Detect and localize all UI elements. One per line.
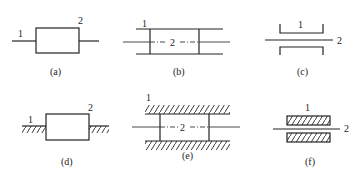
label-2: 2 (88, 102, 93, 113)
caption-c: (c) (297, 66, 308, 78)
caption-b: (b) (173, 66, 185, 78)
label-1: 1 (28, 114, 33, 125)
panel-c: 1 2 (c) (265, 19, 342, 78)
panel-f: 1 2 (f) (273, 102, 349, 168)
block (46, 114, 89, 140)
caption-d: (d) (61, 156, 73, 168)
panel-d: 1 2 (d) (22, 102, 109, 168)
caption-a: (a) (50, 66, 61, 78)
caption-e: (e) (182, 150, 193, 162)
bracket-bottom (280, 47, 323, 55)
label-1: 1 (18, 28, 23, 39)
label-1: 1 (305, 102, 310, 113)
guide-hatch-bottom (145, 141, 230, 150)
guide-block-top (287, 116, 330, 125)
label-2: 2 (170, 37, 175, 48)
label-1: 1 (146, 92, 151, 103)
caption-f: (f) (305, 156, 315, 168)
guide-hatch-top (145, 105, 230, 114)
panel-a: 1 2 (a) (12, 15, 99, 78)
label-2: 2 (344, 123, 349, 134)
panel-e: 1 2 (e) (132, 92, 240, 162)
label-1: 1 (298, 19, 303, 30)
label-2: 2 (78, 15, 83, 26)
ground-hatch-left (22, 126, 46, 133)
panel-b: 1 2 (b) (123, 18, 230, 78)
guide-block-bottom (287, 133, 330, 142)
label-2: 2 (180, 122, 185, 133)
slider-block (36, 28, 79, 53)
label-1: 1 (142, 18, 147, 29)
label-2: 2 (337, 35, 342, 46)
kinematic-pair-diagram: 1 2 (a) 1 2 (b) 1 2 (c) 1 2 (d) (0, 0, 360, 180)
ground-hatch-right (89, 126, 109, 133)
